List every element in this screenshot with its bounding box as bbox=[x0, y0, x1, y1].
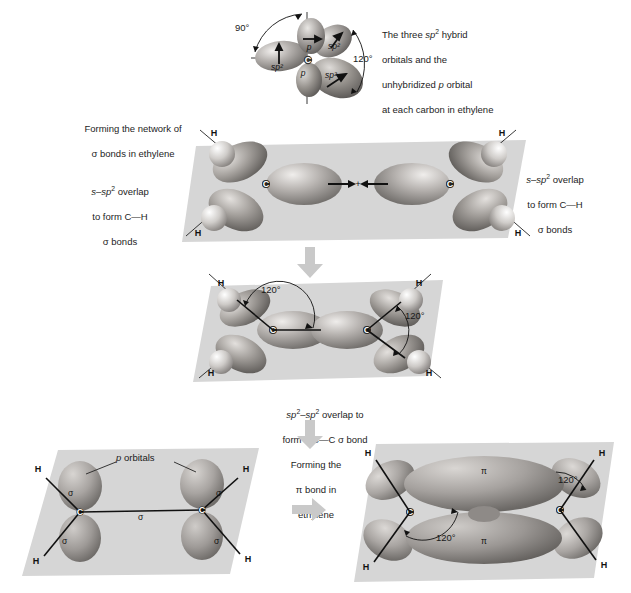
top-caption-line-4: at each carbon in ethylene bbox=[382, 104, 552, 117]
p-h-1-label: H bbox=[35, 464, 42, 474]
framework-caption-line-1: sp2–sp2 overlap to bbox=[245, 406, 405, 422]
top-orbital-label-sp2-left: sp² bbox=[271, 62, 284, 72]
framework-angle-label-right: 120° bbox=[405, 310, 425, 321]
top-panel-caption: The three sp2 hybrid orbitals and the un… bbox=[382, 13, 552, 129]
pi-bond-diagram: C C H H H H π π 120° 120° bbox=[348, 436, 623, 588]
sigma-panel-left-caption: s–sp2 overlap to form C—H σ bonds bbox=[55, 170, 185, 261]
p-orbitals-diagram: C C H H H H σ σ σ σ σ p orbitals bbox=[16, 438, 266, 586]
pi-h-3-label: H bbox=[599, 448, 606, 458]
p-sigma-label-5: σ bbox=[214, 536, 220, 546]
pi-label-upper: π bbox=[481, 466, 487, 476]
top-caption-line-1: The three sp2 hybrid bbox=[382, 26, 552, 42]
p-sigma-label-2: σ bbox=[62, 536, 68, 546]
sigma-left-caption-line-3: σ bonds bbox=[55, 236, 185, 249]
p-sigma-label-1: σ bbox=[68, 488, 74, 498]
top-angle-label-90: 90° bbox=[235, 22, 249, 33]
framework-h-2-label: H bbox=[416, 278, 423, 288]
p-right-c-label: C bbox=[199, 505, 206, 515]
sigma-left-h-bottom-label: H bbox=[195, 228, 202, 238]
p-left-c-label: C bbox=[77, 507, 84, 517]
top-orbital-label-sp2-upper-right: sp² bbox=[328, 41, 341, 51]
top-carbon-atom-label: C bbox=[305, 55, 312, 65]
pi-h-4-label: H bbox=[601, 560, 608, 570]
top-caption-line-3: unhybridized p orbital bbox=[382, 79, 552, 92]
pi-h-2-label: H bbox=[363, 562, 370, 572]
p-h-2-label: H bbox=[33, 556, 40, 566]
pi-h-1-label: H bbox=[365, 448, 372, 458]
p-h-4-label: H bbox=[245, 554, 252, 564]
top-orbital-label-p-lower: p bbox=[300, 68, 306, 78]
pi-angle-label-right: 120° bbox=[558, 474, 578, 485]
framework-h-1-label: H bbox=[218, 278, 225, 288]
sigma-left-h-top-label: H bbox=[211, 128, 218, 138]
right-block-arrow bbox=[292, 498, 328, 522]
pi-angle-label-left: 120° bbox=[436, 532, 456, 543]
sigma-left-c-label: C bbox=[263, 179, 270, 189]
p-h-3-label: H bbox=[243, 464, 250, 474]
framework-h-3-label: H bbox=[208, 368, 215, 378]
p-sigma-label-3: σ bbox=[138, 512, 144, 522]
figure-canvas: C p p sp² sp² sp² bbox=[0, 0, 631, 593]
pi-label-lower: π bbox=[481, 536, 487, 546]
top-carbon-orbital-diagram: C p p sp² sp² sp² bbox=[245, 8, 385, 108]
framework-h-4-label: H bbox=[426, 368, 433, 378]
p-sigma-label-4: σ bbox=[216, 488, 222, 498]
sigma-left-caption-line-1: s–sp2 overlap bbox=[55, 183, 185, 199]
sigma-left-caption-line-2: to form C—H bbox=[55, 211, 185, 224]
p-orbitals-label: p orbitals bbox=[116, 452, 155, 463]
sigma-right-c-label: C bbox=[447, 179, 454, 189]
top-caption-line-2: orbitals and the bbox=[382, 54, 552, 67]
plus-sign-label: + bbox=[355, 178, 361, 189]
sigma-right-h-bottom-label: H bbox=[515, 228, 522, 238]
top-orbital-label-p-upper: p bbox=[306, 42, 312, 52]
framework-angle-label-left: 120° bbox=[261, 284, 281, 295]
top-orbital-label-sp2-lower-right: sp² bbox=[325, 70, 338, 80]
top-angle-label-120: 120° bbox=[353, 53, 373, 64]
sigma-right-h-top-label: H bbox=[499, 128, 506, 138]
sigma-framework-diagram: C C H H H H 120° 120° bbox=[185, 272, 455, 390]
sigma-network-diagram: C H H C H H bbox=[178, 118, 538, 250]
